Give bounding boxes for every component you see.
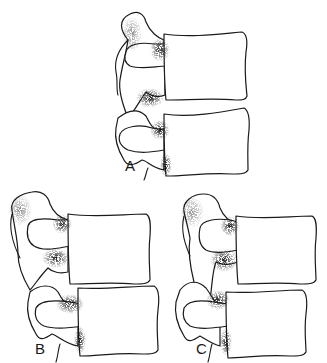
lower-vertebral-body (164, 108, 249, 176)
vertebrae-illustration: A B C (0, 0, 327, 363)
panel-a (115, 12, 249, 180)
panel-label-c: C (196, 340, 207, 357)
lower-vertebral-body (78, 286, 159, 356)
lower-vertebral-body (226, 290, 307, 358)
panel-label-a: A (125, 157, 135, 174)
panel-b (8, 192, 159, 362)
panel-label-b: B (35, 340, 45, 357)
vertebrae-drawing (0, 0, 327, 363)
upper-vertebral-body (236, 216, 316, 284)
upper-vertebral-body (164, 32, 247, 100)
panel-c (175, 194, 316, 362)
upper-vertebral-body (68, 214, 150, 284)
